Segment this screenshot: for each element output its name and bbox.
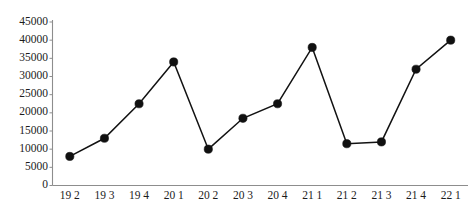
data-point-marker <box>170 58 178 66</box>
x-axis-tick-label: 20 2 <box>198 189 218 201</box>
x-axis-tick-label: 19 2 <box>60 189 80 201</box>
chart-canvas: 0500010000150002000025000300003500040000… <box>0 0 474 216</box>
x-axis-tick-label: 21 4 <box>406 189 426 201</box>
data-point-marker <box>412 65 420 73</box>
x-axis-tick-label: 21 1 <box>302 189 322 201</box>
y-axis-tick-label: 0 <box>42 178 48 190</box>
y-axis-tick-label: 45000 <box>19 15 48 27</box>
y-axis-tick-label: 30000 <box>19 69 48 81</box>
x-axis-tick-label: 20 4 <box>267 189 287 201</box>
line-chart: 0500010000150002000025000300003500040000… <box>0 0 474 216</box>
data-point-marker <box>135 100 143 108</box>
x-axis-tick-label: 21 2 <box>337 189 357 201</box>
data-point-marker <box>377 138 385 146</box>
x-axis-tick-label: 22 1 <box>441 189 461 201</box>
y-axis-tick-label: 5000 <box>25 160 48 172</box>
data-point-marker <box>239 114 247 122</box>
y-axis-tick-label: 25000 <box>19 87 48 99</box>
data-point-marker <box>204 145 212 153</box>
y-axis-tick-label: 15000 <box>19 124 48 136</box>
data-point-marker <box>66 152 74 160</box>
x-axis-tick-label: 21 3 <box>371 189 391 201</box>
data-point-marker <box>343 140 351 148</box>
data-point-marker <box>308 43 316 51</box>
x-axis-tick-label: 20 3 <box>233 189 253 201</box>
data-point-marker <box>100 134 108 142</box>
data-point-marker <box>273 100 281 108</box>
x-axis-tick-label: 19 3 <box>94 189 114 201</box>
y-axis-tick-label: 40000 <box>19 33 48 45</box>
data-point-marker <box>447 36 455 44</box>
chart-background <box>0 0 474 216</box>
y-axis-tick-label: 35000 <box>19 51 48 63</box>
y-axis-tick-label: 20000 <box>19 105 48 117</box>
y-axis-tick-label: 10000 <box>19 142 48 154</box>
x-axis-tick-label: 19 4 <box>129 189 149 201</box>
x-axis-tick-label: 20 1 <box>164 189 184 201</box>
